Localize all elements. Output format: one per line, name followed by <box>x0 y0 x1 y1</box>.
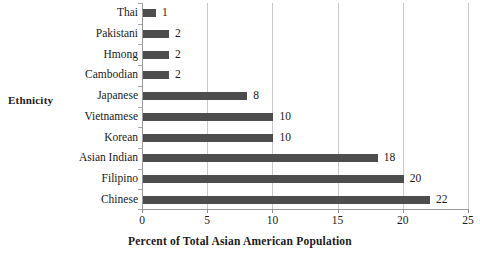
bar-value-label: 2 <box>175 28 181 40</box>
bar <box>143 134 273 142</box>
y-axis-tick-label: Filipino <box>40 173 138 185</box>
bar-value-label: 10 <box>279 111 291 123</box>
x-axis-line <box>142 209 469 210</box>
x-axis-tick-label: 0 <box>139 215 145 227</box>
y-axis-tick <box>138 148 142 149</box>
y-axis-tick <box>138 169 142 170</box>
bar-value-label: 8 <box>253 90 259 102</box>
x-axis-tick <box>468 209 469 213</box>
bar-value-label: 2 <box>175 69 181 81</box>
plot-area: 122281010182022 <box>142 3 468 210</box>
y-axis-tick <box>138 209 142 210</box>
bar-value-label: 20 <box>410 173 422 185</box>
x-axis-tick <box>338 209 339 213</box>
x-axis-tick-label: 20 <box>397 215 409 227</box>
x-axis-tick <box>142 209 143 213</box>
bar-value-label: 10 <box>279 132 291 144</box>
x-axis-tick <box>207 209 208 213</box>
y-axis-tick <box>138 127 142 128</box>
bar <box>143 92 247 100</box>
y-axis-tick <box>138 107 142 108</box>
y-axis-tick <box>138 86 142 87</box>
bar-value-label: 22 <box>436 194 448 206</box>
x-axis-tick <box>403 209 404 213</box>
y-axis-tick-label: Asian Indian <box>40 152 138 164</box>
bar-value-label: 1 <box>162 7 168 19</box>
y-axis-tick <box>138 189 142 190</box>
bar <box>143 71 169 79</box>
y-axis-tick-label: Pakistani <box>40 28 138 40</box>
y-axis-tick <box>138 3 142 4</box>
x-axis-tick-label: 25 <box>462 215 474 227</box>
bar <box>143 154 378 162</box>
y-axis-tick-label: Cambodian <box>40 69 138 81</box>
y-axis-tick-label: Korean <box>40 132 138 144</box>
bar-value-label: 18 <box>384 152 396 164</box>
bar <box>143 9 156 17</box>
bar <box>143 113 273 121</box>
bar <box>143 51 169 59</box>
y-axis-tick-label: Chinese <box>40 194 138 206</box>
y-axis-tick <box>138 65 142 66</box>
bar <box>143 196 430 204</box>
bar-value-label: 2 <box>175 49 181 61</box>
y-axis-tick-label: Thai <box>40 7 138 19</box>
y-axis-tick <box>138 24 142 25</box>
y-axis-tick-label: Vietnamese <box>40 111 138 123</box>
x-axis-tick-label: 10 <box>267 215 279 227</box>
x-axis-tick-label: 5 <box>204 215 210 227</box>
bar <box>143 175 404 183</box>
y-axis-tick-label: Japanese <box>40 90 138 102</box>
bar <box>143 30 169 38</box>
y-axis-tick-labels: ThaiPakistaniHmongCambodianJapaneseVietn… <box>40 3 138 210</box>
gridline <box>468 3 469 210</box>
y-axis-tick <box>138 44 142 45</box>
bar-chart: Ethnicity ThaiPakistaniHmongCambodianJap… <box>0 0 480 254</box>
x-axis-tick-label: 15 <box>332 215 344 227</box>
x-axis-title: Percent of Total Asian American Populati… <box>0 235 480 247</box>
x-axis-tick <box>272 209 273 213</box>
y-axis-tick-label: Hmong <box>40 49 138 61</box>
